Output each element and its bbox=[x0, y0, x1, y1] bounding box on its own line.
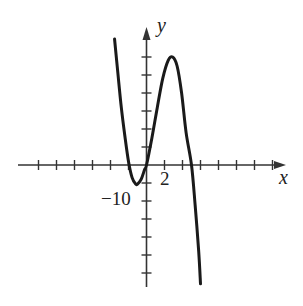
function-curve bbox=[115, 39, 201, 284]
y-axis-label: y bbox=[157, 14, 166, 37]
x-axis-label: x bbox=[279, 166, 288, 189]
y-axis-arrow-icon bbox=[143, 27, 151, 40]
axes bbox=[18, 27, 286, 287]
x-tick-label-2: 2 bbox=[160, 168, 170, 190]
cubic-function-graph bbox=[0, 0, 303, 306]
y-tick-label-neg10: −10 bbox=[101, 188, 131, 210]
